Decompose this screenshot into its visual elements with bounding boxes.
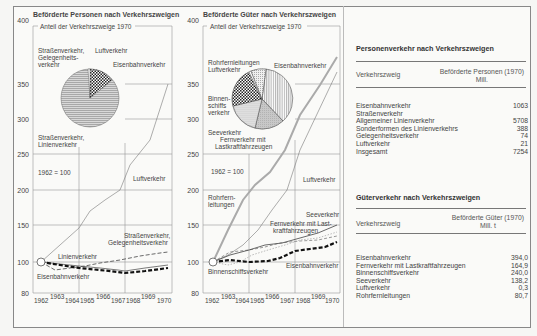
svg-text:Luftverkehr: Luftverkehr — [208, 66, 241, 73]
table-row: Sonderformen des Linienverkehrs388 — [356, 125, 528, 133]
svg-text:1967: 1967 — [111, 297, 126, 304]
table-row: Seeverkehr138,2 — [356, 277, 528, 285]
goods-table-rule-bottom — [356, 233, 526, 234]
svg-text:1970: 1970 — [157, 297, 172, 304]
goods-table-title: Güterverkehr nach Verkehrszweigen — [356, 193, 528, 202]
svg-text:Luftverkehr: Luftverkehr — [95, 47, 128, 54]
svg-text:1968: 1968 — [126, 297, 141, 304]
svg-text:1970: 1970 — [325, 297, 340, 304]
right-chart: Beförderte Güter nach Verkehrszweigen 40… — [187, 11, 340, 304]
svg-text:200: 200 — [17, 187, 29, 194]
svg-text:1969: 1969 — [311, 293, 326, 300]
table-row: Fernverkehr mit Lastkraftfahrzeugen164,9 — [356, 262, 528, 270]
svg-text:Luftverkehr: Luftverkehr — [303, 176, 336, 183]
svg-text:1964: 1964 — [65, 297, 80, 304]
persons-col-right: Beförderte Personen (1970) Mill. — [440, 68, 524, 84]
svg-text:400: 400 — [17, 17, 29, 24]
goods-table-rule-top — [356, 208, 526, 209]
svg-text:1967: 1967 — [280, 297, 295, 304]
right-x-axis: 1962 1963 1964 1965 1966 1967 1968 1969 … — [205, 293, 340, 304]
svg-text:Fernverkehr mit Last-: Fernverkehr mit Last- — [270, 220, 332, 227]
svg-text:Straßenverkehr,: Straßenverkehr, — [124, 232, 170, 239]
table-row: Eisenbahnverkehr394,0 — [356, 254, 528, 262]
table-row: Gelegenheitsverkehr74 — [356, 132, 528, 140]
svg-text:verkehr: verkehr — [208, 109, 231, 116]
svg-text:1962: 1962 — [34, 297, 49, 304]
svg-text:400: 400 — [187, 17, 199, 24]
persons-col-left: Verkehrszweig — [356, 71, 400, 78]
svg-text:250: 250 — [17, 151, 29, 158]
right-chart-title: Beförderte Güter nach Verkehrszweigen — [203, 11, 336, 19]
svg-text:1964: 1964 — [235, 297, 250, 304]
left-x-axis: 1962 1963 1964 1965 1966 1967 1968 1969 … — [34, 293, 172, 304]
svg-text:200: 200 — [187, 187, 199, 194]
svg-text:1962 = 100: 1962 = 100 — [38, 169, 71, 176]
svg-text:1968: 1968 — [296, 297, 311, 304]
persons-table-title: Personenverkehr nach Verkehrszweigen — [356, 44, 528, 53]
svg-text:Rohrfern-: Rohrfern- — [208, 194, 235, 201]
svg-text:Binnen-: Binnen- — [208, 95, 230, 102]
svg-text:300: 300 — [17, 116, 29, 123]
svg-text:80: 80 — [191, 290, 199, 297]
svg-text:Luftverkehr: Luftverkehr — [133, 175, 166, 182]
svg-text:Binnenschiffsverkehr: Binnenschiffsverkehr — [208, 268, 269, 275]
svg-text:Eisenbahnverkehr: Eisenbahnverkehr — [274, 62, 327, 69]
svg-text:1966: 1966 — [265, 293, 280, 300]
left-chart-title: Beförderte Personen nach Verkehrszweigen — [33, 11, 179, 19]
svg-text:250: 250 — [187, 151, 199, 158]
table-row: Eisenbahnverkehr1063 — [356, 102, 528, 110]
right-line-see — [213, 236, 337, 262]
svg-text:Linienverkehr: Linienverkehr — [58, 253, 98, 260]
svg-text:80: 80 — [21, 290, 29, 297]
table-row: Straßenverkehr — [356, 110, 528, 118]
goods-col-left: Verkehrszweig — [356, 220, 400, 227]
table-row: Insgesamt7254 — [356, 148, 528, 156]
svg-text:350: 350 — [17, 81, 29, 88]
svg-text:1962: 1962 — [205, 297, 220, 304]
svg-text:150: 150 — [17, 222, 29, 229]
table-row: Luftverkehr0,3 — [356, 284, 528, 292]
svg-text:1962 = 100: 1962 = 100 — [211, 168, 244, 175]
table-row: Allgemeiner Linienverkehr5708 — [356, 117, 528, 125]
svg-text:leitungen: leitungen — [208, 201, 235, 209]
svg-text:1966: 1966 — [96, 293, 111, 300]
svg-text:1965: 1965 — [250, 297, 265, 304]
table-row: Binnenschiffsverkehr240,0 — [356, 269, 528, 277]
svg-text:Seeverkehr: Seeverkehr — [306, 211, 340, 218]
svg-text:verkehr: verkehr — [38, 61, 61, 68]
svg-text:Fernverkehr mit: Fernverkehr mit — [220, 136, 266, 143]
goods-table-rows: Eisenbahnverkehr394,0 Fernverkehr mit La… — [356, 254, 528, 300]
left-pie — [61, 69, 119, 127]
right-pie — [232, 69, 293, 129]
left-line-labels: Luftverkehr Straßenverkehr, Gelegenheits… — [37, 175, 170, 280]
svg-text:Seeverkehr: Seeverkehr — [208, 129, 242, 136]
svg-text:schiffs: schiffs — [208, 102, 227, 109]
svg-text:Straßenverkehr,: Straßenverkehr, — [38, 134, 84, 141]
table-row: Luftverkehr21 — [356, 140, 528, 148]
goods-col-right: Beförderte Güter (1970) Mill. t — [452, 214, 524, 230]
svg-text:Eisenbahnverkehr: Eisenbahnverkehr — [286, 262, 339, 269]
persons-table-rule-top — [356, 61, 526, 62]
right-y-axis: 400 350 300 250 200 150 100 80 — [187, 17, 199, 297]
right-pie-title: Anteil der Verkehrszweige 1970 — [210, 23, 302, 31]
left-chart: Beförderte Personen nach Verkehrszweigen… — [17, 11, 179, 304]
svg-text:150: 150 — [187, 222, 199, 229]
svg-text:Lastkraftfahrzeugen: Lastkraftfahrzeugen — [215, 143, 273, 151]
svg-text:1963: 1963 — [50, 293, 65, 300]
svg-text:Eisenbahnverkehr: Eisenbahnverkehr — [37, 273, 90, 280]
svg-text:Straßenverkehr,: Straßenverkehr, — [38, 47, 84, 54]
svg-text:350: 350 — [187, 81, 199, 88]
persons-table-rule-bottom — [356, 87, 526, 88]
left-pie-title: Anteil der Verkehrszweige 1970 — [40, 23, 132, 31]
svg-text:kraftfahrzeugen: kraftfahrzeugen — [273, 227, 319, 235]
svg-text:Linienverkehr: Linienverkehr — [38, 141, 78, 148]
svg-text:Gelegenheitsverkehr: Gelegenheitsverkehr — [108, 239, 169, 247]
svg-text:Eisenbahnverkehr: Eisenbahnverkehr — [113, 61, 166, 68]
svg-text:300: 300 — [187, 116, 199, 123]
persons-table-rows: Eisenbahnverkehr1063 Straßenverkehr Allg… — [356, 102, 528, 155]
svg-text:100: 100 — [17, 259, 29, 266]
left-y-axis: 400 350 300 250 200 150 100 80 — [17, 17, 29, 297]
svg-text:100: 100 — [187, 259, 199, 266]
table-row: Rohrfernleitungen80,7 — [356, 292, 528, 300]
svg-text:1963: 1963 — [221, 293, 236, 300]
